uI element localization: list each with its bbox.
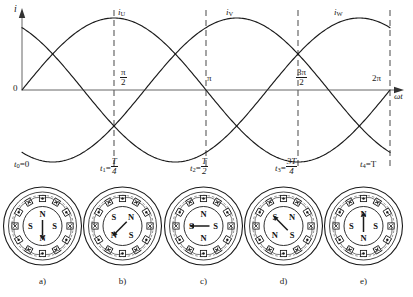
pole-label-N: N — [272, 230, 279, 240]
rotor-diagram-d: SNSN — [245, 187, 323, 265]
subfigure-caption-a: a) — [28, 276, 58, 286]
pole-label-N: N — [200, 209, 207, 219]
pole-label-N: N — [200, 233, 207, 243]
pole-label-S: S — [129, 230, 134, 240]
rotor-diagram-c: SNSN — [165, 187, 243, 265]
figure-root: i ωt 0 iUiViW π2π3π22π t0=0t1=T4t2=T2t3=… — [0, 0, 413, 297]
angle-tick-0: π2 — [120, 68, 127, 88]
angle-tick-1: π — [207, 74, 212, 83]
phase-label-u: iU — [118, 8, 125, 18]
y-axis-label: i — [14, 4, 17, 14]
pole-label-N: N — [360, 233, 367, 243]
rotor-diagram-b: NSNS — [84, 187, 162, 265]
subfigure-caption-b: b) — [108, 276, 138, 286]
pole-label-S: S — [28, 221, 33, 231]
waveform-svg — [0, 0, 413, 180]
time-mark-t1: t1=T4 — [100, 157, 118, 177]
rotor-diagram-row: NSNSNSNSSNSNSNSNNSNS a)b)c)d)e) — [0, 178, 413, 297]
angle-tick-2: 3π2 — [296, 68, 307, 88]
angle-tick-3: 2π — [372, 74, 381, 83]
time-mark-t0: t0=0 — [14, 160, 29, 170]
phase-label-w: iW — [334, 8, 343, 18]
pole-label-N: N — [289, 212, 296, 222]
phase-label-v: iV — [226, 8, 233, 18]
pole-label-S: S — [290, 230, 295, 240]
origin-label: 0 — [13, 84, 18, 93]
field-direction-arrow — [273, 216, 287, 230]
time-mark-t4: t4=T — [360, 160, 376, 170]
pole-label-S: S — [112, 212, 117, 222]
subfigure-caption-c: c) — [189, 276, 219, 286]
pole-label-S: S — [373, 221, 378, 231]
subfigure-caption-e: e) — [349, 276, 379, 286]
pole-label-S: S — [213, 221, 218, 231]
chart-dashed-verticals — [114, 10, 390, 166]
rotor-diagram-e: NSNS — [325, 187, 403, 265]
pole-label-S: S — [349, 221, 354, 231]
pole-label-N: N — [128, 212, 135, 222]
time-mark-t2: t2=T2 — [190, 157, 208, 177]
pole-label-N: N — [39, 209, 46, 219]
subfigure-caption-d: d) — [269, 276, 299, 286]
rotor-diagrams-svg: NSNSNSNSSNSNSNSNNSNS — [0, 178, 413, 278]
pole-label-S: S — [52, 221, 57, 231]
x-axis-label: ωt — [394, 92, 403, 101]
time-mark-t3: t3=3T4 — [275, 157, 297, 177]
rotor-diagram-a: NSNS — [4, 187, 82, 265]
waveform-chart: i ωt 0 iUiViW π2π3π22π t0=0t1=T4t2=T2t3=… — [0, 0, 413, 180]
